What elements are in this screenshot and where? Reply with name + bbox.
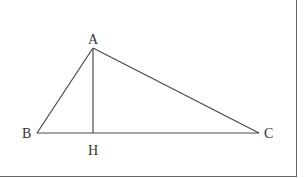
label-c: C	[264, 126, 273, 141]
label-a: A	[88, 32, 99, 47]
segment-ab	[37, 48, 93, 133]
label-h: H	[88, 143, 98, 158]
triangle-diagram: A B C H	[0, 0, 307, 178]
segment-ac	[93, 48, 259, 133]
label-b: B	[22, 126, 31, 141]
